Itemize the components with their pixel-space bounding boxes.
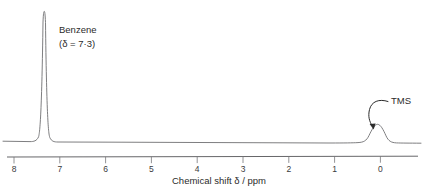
- tms-annotation: TMS: [369, 95, 411, 130]
- x-axis-title: Chemical shift δ / ppm: [172, 175, 266, 186]
- tick-label-6: 6: [103, 164, 108, 174]
- tick-label-4: 4: [195, 164, 200, 174]
- tick-label-0: 0: [378, 164, 383, 174]
- x-axis-line: [7, 156, 418, 157]
- benzene-label-line1: Benzene: [59, 24, 97, 35]
- tick-label-7: 7: [57, 164, 62, 174]
- x-axis-tick-labels: 8 7 6 5 4 3 2 1 0: [12, 164, 383, 174]
- tick-label-5: 5: [149, 164, 154, 174]
- tick-label-2: 2: [286, 164, 291, 174]
- tick-label-1: 1: [332, 164, 337, 174]
- tick-label-8: 8: [12, 164, 17, 174]
- benzene-label-line2: (δ = 7·3): [59, 38, 95, 49]
- nmr-spectrum-figure: 8 7 6 5 4 3 2 1 0 Chemical shift δ / ppm…: [0, 0, 425, 191]
- tms-curved-arrow-icon: [369, 100, 388, 126]
- tick-label-3: 3: [241, 164, 246, 174]
- spectrum-canvas: 8 7 6 5 4 3 2 1 0 Chemical shift δ / ppm…: [0, 0, 425, 191]
- tms-label: TMS: [391, 95, 411, 106]
- benzene-annotation: Benzene (δ = 7·3): [59, 24, 97, 49]
